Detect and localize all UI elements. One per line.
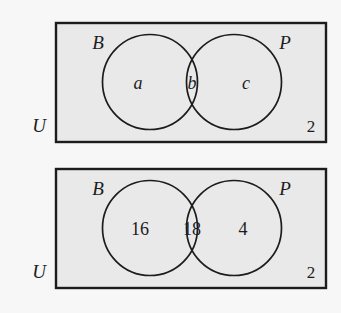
label-region-p-only: c bbox=[242, 73, 250, 93]
label-region-p-only: 4 bbox=[239, 219, 248, 239]
label-set-b: B bbox=[92, 178, 104, 199]
corner-note: 2 bbox=[307, 263, 316, 282]
label-set-p: P bbox=[278, 178, 291, 199]
label-region-b-only: a bbox=[134, 73, 143, 93]
venn-svg-bottom: B P 16 18 4 U 2 bbox=[0, 156, 341, 313]
label-region-b-only: 16 bbox=[131, 219, 149, 239]
label-region-intersection: 18 bbox=[183, 219, 201, 239]
label-set-p: P bbox=[278, 32, 291, 53]
venn-diagram-bottom: B P 16 18 4 U 2 bbox=[0, 156, 341, 313]
label-set-b: B bbox=[92, 32, 104, 53]
label-universe: U bbox=[32, 115, 47, 136]
corner-note: 2 bbox=[307, 117, 316, 136]
venn-svg-top: B P a b c U 2 bbox=[0, 0, 341, 157]
label-region-intersection: b bbox=[188, 73, 197, 93]
venn-diagram-top: B P a b c U 2 bbox=[0, 0, 341, 157]
label-universe: U bbox=[32, 261, 47, 282]
